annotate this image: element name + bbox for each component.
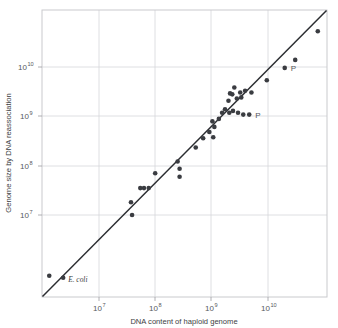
data-point xyxy=(231,109,236,114)
y-tick-exponent: 10 xyxy=(28,61,34,67)
x-tick-exponent: 7 xyxy=(103,302,106,308)
data-point xyxy=(235,96,240,101)
data-point xyxy=(315,29,320,34)
x-tick-exponent: 8 xyxy=(159,302,162,308)
data-point xyxy=(241,112,246,117)
y-tick-marks xyxy=(38,67,42,215)
data-point xyxy=(217,117,222,122)
data-point xyxy=(130,213,135,218)
data-point xyxy=(249,90,254,95)
point-label-p: P xyxy=(291,64,296,73)
data-point xyxy=(282,66,287,71)
data-point xyxy=(265,78,270,83)
data-point xyxy=(210,119,215,124)
data-point xyxy=(177,175,182,180)
plot-canvas: 10 7 10 8 10 9 10 10 10 10 10 9 10 8 10 … xyxy=(0,0,338,328)
point-label-p: P xyxy=(255,111,260,120)
data-point xyxy=(129,200,134,205)
y-tick-exponent: 9 xyxy=(30,110,33,116)
data-point xyxy=(238,90,243,95)
x-tick-label: 10 xyxy=(93,304,102,313)
data-point xyxy=(193,145,198,150)
data-point xyxy=(146,186,151,191)
data-point xyxy=(201,136,206,141)
y-tick-exponent: 7 xyxy=(30,209,33,215)
y-axis-title: Genome size by DNA reassociation xyxy=(4,93,13,212)
y-tick-label: 10 xyxy=(18,63,27,72)
data-point xyxy=(243,88,248,93)
x-tick-labels: 10 7 10 8 10 9 10 10 xyxy=(93,302,277,313)
data-point xyxy=(223,107,228,112)
x-tick-exponent: 9 xyxy=(215,302,218,308)
x-tick-exponent: 10 xyxy=(271,302,277,308)
x-tick-label: 10 xyxy=(205,304,214,313)
data-point xyxy=(153,171,158,176)
x-tick-label: 10 xyxy=(261,304,270,313)
data-point xyxy=(177,166,182,171)
data-point xyxy=(61,275,66,280)
y-tick-label: 10 xyxy=(20,162,29,171)
data-point xyxy=(247,112,252,117)
data-point xyxy=(230,92,235,97)
data-point xyxy=(211,135,216,140)
data-point xyxy=(232,85,237,90)
data-point xyxy=(142,186,147,191)
data-point xyxy=(236,110,241,115)
scatter-chart-figure: 10 7 10 8 10 9 10 10 10 10 10 9 10 8 10 … xyxy=(0,0,338,328)
data-point xyxy=(207,130,212,135)
data-point xyxy=(226,99,231,104)
y-tick-label: 10 xyxy=(20,112,29,121)
y-tick-exponent: 8 xyxy=(30,160,33,166)
data-point xyxy=(175,159,180,164)
y-tick-labels: 10 10 10 9 10 8 10 7 xyxy=(18,61,34,220)
data-point xyxy=(47,273,52,278)
x-tick-marks xyxy=(99,297,268,301)
data-point xyxy=(293,58,298,63)
x-tick-label: 10 xyxy=(149,304,158,313)
y-tick-label: 10 xyxy=(20,211,29,220)
data-point xyxy=(212,125,217,130)
x-axis-title: DNA content of haploid genome xyxy=(130,317,237,326)
data-point xyxy=(239,95,244,100)
point-label-ecoli: E. coli xyxy=(67,275,87,284)
